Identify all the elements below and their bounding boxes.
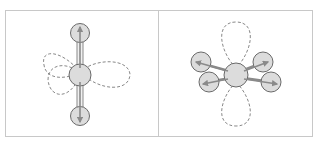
orbital-diagram-figure	[0, 0, 329, 145]
atom-upper-left	[191, 52, 211, 72]
atom-center	[224, 63, 248, 87]
right-atoms	[191, 52, 281, 92]
atom-upper-right	[253, 52, 273, 72]
molecule-drawings	[0, 0, 329, 145]
